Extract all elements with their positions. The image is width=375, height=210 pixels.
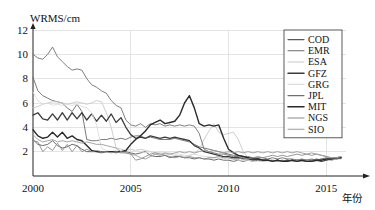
legend-label-mit: MIT	[308, 101, 326, 112]
y-tick-label: 4	[23, 121, 29, 133]
legend-label-sio: SIO	[308, 124, 324, 135]
legend-label-grg: GRG	[308, 79, 329, 90]
y-axis-tick-labels: 24681012	[17, 24, 29, 158]
y-tick-label: 2	[23, 145, 29, 157]
x-axis-arrow	[363, 173, 370, 178]
y-tick-label: 6	[23, 97, 29, 109]
legend-label-emr: EMR	[308, 45, 330, 56]
x-tick-label: 2010	[218, 182, 241, 194]
x-axis-title: 年份	[342, 192, 363, 204]
legend-label-jpl: JPL	[308, 90, 324, 101]
series-line-ngs	[33, 141, 341, 160]
legend-label-cod: COD	[308, 34, 329, 45]
chart-figure: 24681012 2000200520102015 WRMS/cm 年份 COD…	[0, 0, 375, 210]
wrms-line-chart: 24681012 2000200520102015 WRMS/cm 年份 COD…	[0, 0, 375, 210]
y-axis-title: WRMS/cm	[30, 12, 81, 24]
legend-label-gfz: GFZ	[308, 68, 327, 79]
y-tick-label: 12	[17, 24, 28, 36]
x-tick-label: 2015	[315, 182, 338, 194]
x-tick-label: 2000	[22, 182, 45, 194]
x-axis-tick-labels: 2000200520102015	[22, 182, 338, 194]
x-tick-label: 2005	[120, 182, 143, 194]
legend-label-esa: ESA	[308, 56, 328, 67]
y-tick-label: 10	[17, 48, 29, 60]
chart-legend: CODEMRESAGFZGRGJPLMITNGSSIO	[284, 30, 342, 138]
y-tick-label: 8	[23, 72, 29, 84]
legend-label-ngs: NGS	[308, 112, 328, 123]
